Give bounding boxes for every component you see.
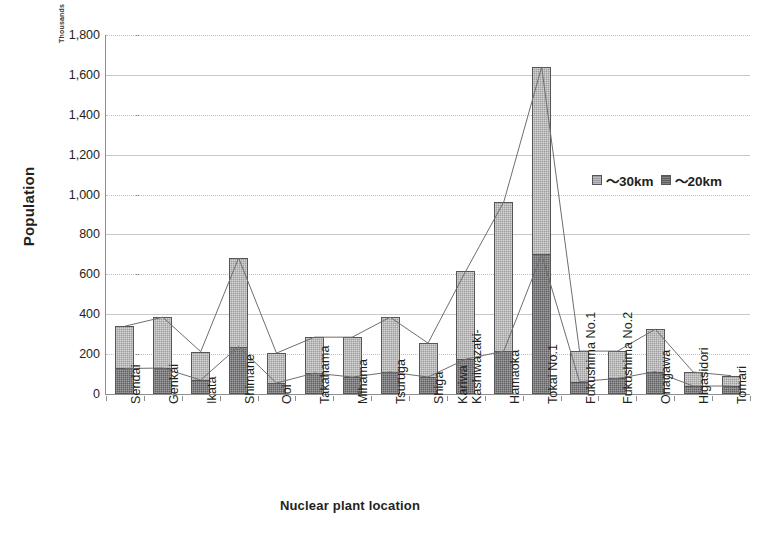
x-axis-tick-labels: SendaiGenkaiIkataShimaneOoiTakahamaMiham…: [106, 396, 750, 496]
x-tick-mark: [750, 396, 751, 401]
x-tick-label: Takahama: [319, 346, 332, 404]
x-tick-label: Genkai: [168, 364, 181, 404]
y-tick-label: 600: [40, 267, 100, 281]
x-tick-label: Shimane: [244, 354, 257, 404]
x-tick-label: Shiga: [433, 372, 446, 404]
x-tick-label: Onagawa: [660, 350, 673, 404]
gridline: [106, 274, 750, 275]
legend-entry[interactable]: ～30km: [592, 170, 654, 190]
x-tick-label: Ikata: [206, 376, 219, 404]
population-bar-chart: Population Thousands 02004006008001,0001…: [0, 0, 774, 544]
x-tick-mark: [333, 396, 334, 401]
x-tick-label: Fukushima No.2: [622, 312, 635, 404]
x-tick-mark: [485, 396, 486, 401]
gridline: [106, 195, 750, 196]
x-tick-label: Ooi: [281, 384, 294, 404]
chart-legend: ～30km～20km: [592, 170, 722, 190]
gridline: [106, 155, 750, 156]
x-tick-label: Tokai No.1: [547, 344, 560, 404]
legend-swatch-icon: [592, 175, 602, 185]
plot-area: [106, 35, 750, 394]
gridline: [106, 35, 750, 36]
gridline: [106, 314, 750, 315]
x-tick-label: Tomari: [736, 366, 749, 404]
x-tick-mark: [144, 396, 145, 401]
x-tick-mark: [295, 396, 296, 401]
x-tick-mark: [561, 396, 562, 401]
x-tick-label: Mihama: [357, 359, 370, 404]
legend-label: ～30km: [606, 170, 654, 190]
y-tick-label: 200: [40, 347, 100, 361]
x-tick-mark: [674, 396, 675, 401]
x-tick-label: Kashiwazaki-: [471, 329, 484, 404]
x-tick-label: Hamaoka: [509, 350, 522, 404]
x-tick-mark: [523, 396, 524, 401]
y-tick-label: 0: [40, 387, 100, 401]
legend-label: ～20km: [675, 170, 723, 190]
gridline: [106, 75, 750, 76]
x-tick-mark: [182, 396, 183, 401]
x-axis-title: Nuclear plant location: [0, 498, 700, 513]
x-axis-line: [105, 394, 750, 395]
x-tick-label: Tsuruga: [395, 359, 408, 404]
gridline: [106, 115, 750, 116]
x-tick-mark: [220, 396, 221, 401]
y-tick-label: 1,000: [40, 188, 100, 202]
y-tick-label: 800: [40, 227, 100, 241]
x-tick-mark: [409, 396, 410, 401]
x-tick-mark: [712, 396, 713, 401]
y-tick-label: 400: [40, 307, 100, 321]
x-tick-mark: [636, 396, 637, 401]
x-tick-label: Kariwa: [457, 365, 470, 404]
y-tick-label: 1,400: [40, 108, 100, 122]
x-tick-mark: [106, 396, 107, 401]
x-tick-label: Sendai: [130, 364, 143, 404]
x-tick-label: Higasidori: [698, 347, 711, 404]
legend-entry[interactable]: ～20km: [661, 170, 723, 190]
y-tick-label: 1,800: [40, 28, 100, 42]
y-tick-label: 1,200: [40, 148, 100, 162]
x-tick-mark: [371, 396, 372, 401]
legend-swatch-icon: [661, 175, 671, 185]
y-tick-label: 1,600: [40, 68, 100, 82]
gridline: [106, 234, 750, 235]
x-tick-label: Fukushima No.1: [585, 312, 598, 404]
y-axis-tick-labels: 02004006008001,0001,2001,4001,6001,800: [34, 0, 100, 544]
x-tick-mark: [447, 396, 448, 401]
x-tick-mark: [258, 396, 259, 401]
x-tick-mark: [598, 396, 599, 401]
